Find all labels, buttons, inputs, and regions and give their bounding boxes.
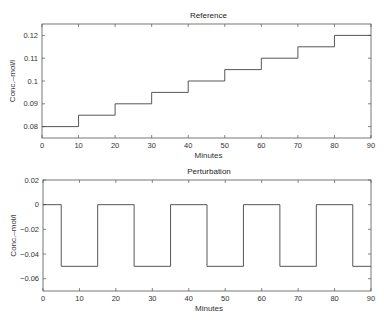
x-tick-label: 70 <box>294 141 302 150</box>
x-axis-label: Minutes <box>194 151 222 160</box>
x-tick-label: 60 <box>257 141 265 150</box>
chart-reference: 01020304050607080900.080.090.10.110.12Re… <box>8 11 375 160</box>
y-axis-label: Conc.–mol/l <box>9 214 18 256</box>
chart-title: Reference <box>190 11 227 20</box>
x-tick-label: 0 <box>41 294 45 303</box>
x-tick-label: 90 <box>367 141 375 150</box>
figure: 01020304050607080900.080.090.10.110.12Re… <box>0 0 384 321</box>
x-tick-label: 30 <box>148 294 156 303</box>
y-tick-label: 0.09 <box>23 99 38 108</box>
x-axis-label: Minutes <box>195 304 223 313</box>
y-axis-label: Conc.–mol/l <box>8 60 17 102</box>
chart-perturbation: 01020304050607080900.020−0.02−0.04−0.06P… <box>9 167 375 313</box>
x-tick-label: 80 <box>330 294 338 303</box>
x-tick-label: 70 <box>294 294 302 303</box>
x-tick-label: 50 <box>221 294 229 303</box>
x-tick-label: 40 <box>184 141 192 150</box>
chart-title: Perturbation <box>187 167 231 176</box>
x-tick-label: 0 <box>40 141 44 150</box>
data-series-line <box>43 205 371 267</box>
y-tick-label: 0 <box>35 200 39 209</box>
x-tick-label: 50 <box>221 141 229 150</box>
y-tick-label: 0.02 <box>24 176 39 185</box>
x-tick-label: 40 <box>185 294 193 303</box>
x-tick-label: 20 <box>111 141 119 150</box>
y-tick-label: 0.08 <box>23 122 38 131</box>
x-tick-label: 80 <box>330 141 338 150</box>
x-tick-label: 90 <box>367 294 375 303</box>
x-tick-label: 10 <box>74 141 82 150</box>
y-tick-label: 0.1 <box>28 77 38 86</box>
y-tick-label: −0.04 <box>20 250 39 259</box>
x-tick-label: 10 <box>75 294 83 303</box>
data-series-line <box>42 35 371 126</box>
y-tick-label: −0.06 <box>20 274 39 283</box>
y-tick-label: 0.12 <box>23 31 38 40</box>
x-tick-label: 60 <box>257 294 265 303</box>
x-tick-label: 20 <box>112 294 120 303</box>
y-tick-label: −0.02 <box>20 225 39 234</box>
x-tick-label: 30 <box>147 141 155 150</box>
y-tick-label: 0.11 <box>24 54 38 63</box>
